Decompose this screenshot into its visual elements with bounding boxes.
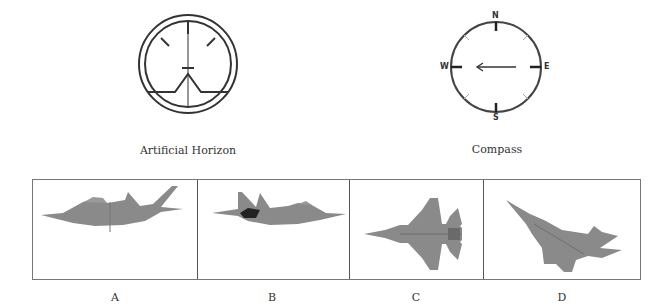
aircraft-dive-view-icon — [484, 180, 641, 279]
option-a-panel[interactable] — [33, 180, 197, 279]
compass-label: Compass — [452, 143, 542, 156]
compass-south-label: S — [493, 113, 499, 122]
compass-west-label: W — [440, 62, 449, 71]
option-d-label: D — [552, 291, 572, 304]
artificial-horizon-label: Artificial Horizon — [128, 144, 248, 157]
option-d-panel[interactable] — [483, 180, 640, 279]
option-b-label: B — [262, 291, 282, 304]
aircraft-side-left-icon — [33, 180, 197, 279]
option-b-panel[interactable] — [197, 180, 349, 279]
aircraft-side-right-icon — [198, 180, 350, 279]
compass-instrument: N S W E — [440, 10, 552, 122]
compass-north-label: N — [492, 11, 499, 20]
artificial-horizon-icon — [136, 12, 240, 116]
option-c-label: C — [406, 291, 426, 304]
compass-east-label: E — [544, 62, 549, 71]
option-a-label: A — [105, 291, 125, 304]
aircraft-top-view-icon — [350, 180, 484, 279]
aircraft-options — [32, 179, 641, 280]
compass-icon — [440, 10, 552, 122]
artificial-horizon-instrument — [136, 12, 240, 116]
option-c-panel[interactable] — [349, 180, 483, 279]
